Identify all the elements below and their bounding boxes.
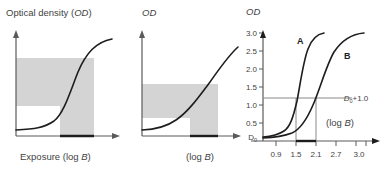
x-tick-2-7: 2.7 <box>330 150 342 159</box>
panel-1-x-axis-arrow <box>112 133 120 139</box>
panel-1-x-axis-label: Exposure (log B) <box>20 151 91 162</box>
panel-2-y-axis-arrow <box>139 30 145 38</box>
d0-plus-one-annotation: D0+1.0 <box>344 94 369 104</box>
x-tick-marks <box>276 141 366 146</box>
panel-optical-density-exposure: Optical density (OD) Exposure (log B) <box>0 0 130 172</box>
panel-3-x-axis-arrow <box>372 138 380 144</box>
y-tick-marks <box>259 33 263 123</box>
panel-3-plot: 3.0 2.5 2.0 1.5 1.0 0.5 D0 <box>240 0 385 172</box>
y-tick-3-0: 3.0 <box>246 29 258 38</box>
panel-1-y-axis-arrow <box>13 30 19 38</box>
y-tick-0-5: 0.5 <box>246 119 258 128</box>
x-tick-2-1: 2.1 <box>310 150 322 159</box>
curve-b-label: B <box>344 51 351 61</box>
curve-a <box>263 33 324 137</box>
panel-2-plot <box>128 0 250 172</box>
panel-2-x-axis-label: (log B) <box>186 151 214 162</box>
y-tick-2-5: 2.5 <box>246 47 258 56</box>
x-tick-1-5: 1.5 <box>290 150 302 159</box>
panel-3-y-axis-arrow <box>260 30 266 38</box>
exposure-latitude-band <box>60 58 94 136</box>
panel-3-x-axis-label: (log B) <box>326 117 354 128</box>
curve-a-label: A <box>297 36 304 46</box>
y-tick-2-0: 2.0 <box>246 65 258 74</box>
panel-1-plot <box>0 0 130 172</box>
panel-low-contrast-curve: OD (log B) <box>128 0 250 172</box>
x-tick-3-0: 3.0 <box>353 150 365 159</box>
y-tick-1-0: 1.0 <box>246 101 258 110</box>
exposure-latitude-band <box>190 84 218 136</box>
y-tick-1-5: 1.5 <box>246 83 258 92</box>
x-tick-0-9: 0.9 <box>270 150 282 159</box>
characteristic-curves-figure: Optical density (OD) Exposure (log B) OD <box>0 0 385 172</box>
panel-film-speed-comparison: OD 3.0 2.5 2.0 1.5 1.0 0.5 D0 <box>240 0 385 172</box>
